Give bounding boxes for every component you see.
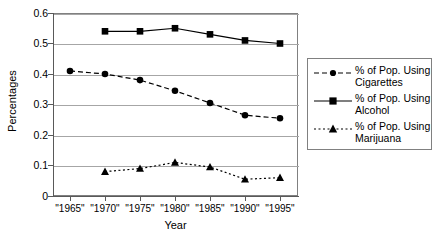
- legend-label-line2: Cigarettes: [355, 76, 430, 88]
- x-tick: [245, 196, 246, 201]
- x-tick: [280, 196, 281, 201]
- x-axis-line: [53, 196, 299, 197]
- legend-marker-circle-dashed: [313, 65, 353, 81]
- series-marker: [276, 174, 284, 181]
- legend-label-line1: % of Pop. Using: [355, 92, 430, 104]
- series-marker: [171, 158, 179, 165]
- series-marker: [172, 25, 179, 32]
- x-tick: [70, 196, 71, 201]
- series-marker: [277, 40, 284, 47]
- x-tick: [105, 196, 106, 201]
- y-axis-title: Percentages: [6, 46, 18, 156]
- chart-root: 0.6 0.5 0.4 0.3 0.2 0.1 0 "1965" "1970" …: [0, 0, 435, 246]
- legend: % of Pop. Using Cigarettes % of Pop. Usi…: [307, 58, 432, 150]
- legend-marker-triangle-dotted: [313, 121, 353, 137]
- y-tick: [48, 196, 53, 197]
- x-tick-label: "1970": [90, 203, 119, 214]
- legend-label-line1: % of Pop. Using: [355, 64, 430, 76]
- series-marker: [101, 168, 109, 175]
- series-marker: [67, 68, 74, 75]
- series-line: [105, 162, 280, 179]
- y-tick-label: 0: [4, 191, 48, 201]
- x-tick-label: "1985": [195, 203, 224, 214]
- x-tick-label: "1980": [160, 203, 189, 214]
- x-tick: [140, 196, 141, 201]
- legend-item-cigarettes[interactable]: % of Pop. Using Cigarettes: [308, 64, 431, 92]
- x-tick-label: "1965": [55, 203, 84, 214]
- legend-item-alcohol[interactable]: % of Pop. Using Alcohol: [308, 92, 431, 120]
- legend-item-marijuana[interactable]: % of Pop. Using Marijuana: [308, 120, 431, 148]
- series-line: [105, 28, 280, 43]
- series-marker: [137, 77, 144, 84]
- series-marker: [242, 112, 249, 119]
- data-series-layer: [53, 13, 298, 196]
- series-marker: [207, 31, 214, 38]
- legend-label-line2: Alcohol: [355, 104, 430, 116]
- y-tick-label: 0.6: [4, 8, 48, 18]
- x-tick: [175, 196, 176, 201]
- series-marker: [207, 100, 214, 107]
- y-tick-label: 0.1: [4, 160, 48, 170]
- series-marker: [102, 28, 109, 35]
- x-tick-label: "1990": [230, 203, 259, 214]
- series-marker: [102, 71, 109, 78]
- x-axis-title: Year: [53, 219, 298, 231]
- x-tick-label: "1975": [125, 203, 154, 214]
- series-marker: [172, 87, 179, 94]
- series-line: [70, 71, 280, 118]
- x-tick-label: "1995": [265, 203, 294, 214]
- x-tick: [210, 196, 211, 201]
- legend-label-line2: Marijuana: [355, 132, 430, 144]
- legend-label-line1: % of Pop. Using: [355, 120, 430, 132]
- series-marker: [277, 115, 284, 122]
- series-marker: [242, 37, 249, 44]
- legend-marker-square-solid: [313, 93, 353, 109]
- series-marker: [137, 28, 144, 35]
- series-marker: [206, 163, 214, 170]
